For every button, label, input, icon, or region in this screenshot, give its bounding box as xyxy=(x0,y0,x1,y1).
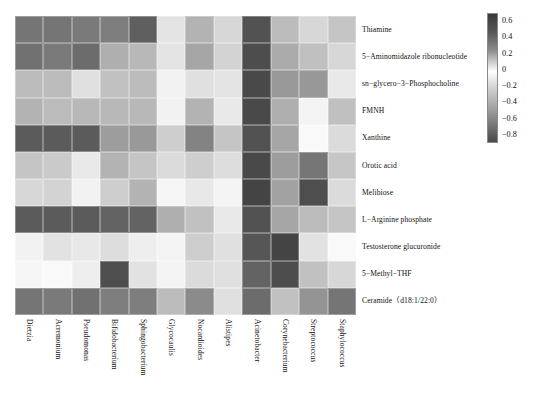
heatmap-cell xyxy=(15,43,43,70)
heatmap-cell xyxy=(129,152,157,179)
row-label: Thiamine xyxy=(362,16,480,43)
heatmap-cell xyxy=(328,206,356,233)
heatmap-cell xyxy=(157,261,185,288)
colorbar-gradient xyxy=(487,13,498,143)
heatmap-cell xyxy=(271,16,299,43)
heatmap-cell xyxy=(242,233,270,260)
heatmap-cell xyxy=(185,206,213,233)
column-label: Bifidobacterium xyxy=(111,319,118,370)
heatmap-cell xyxy=(271,261,299,288)
heatmap-cell xyxy=(185,16,213,43)
heatmap-cell xyxy=(299,16,327,43)
heatmap-cell xyxy=(271,233,299,260)
heatmap-cell xyxy=(242,125,270,152)
row-label: Orotic acid xyxy=(362,152,480,179)
heatmap-cell xyxy=(72,16,100,43)
row-label: Xanthine xyxy=(362,125,480,152)
heatmap-cell xyxy=(242,98,270,125)
heatmap-cell xyxy=(43,70,71,97)
heatmap-cell xyxy=(185,152,213,179)
heatmap-cell xyxy=(242,206,270,233)
heatmap-cell xyxy=(43,288,71,315)
heatmap-cell xyxy=(271,70,299,97)
heatmap-cell xyxy=(100,152,128,179)
heatmap-cell xyxy=(15,261,43,288)
colorbar-tick: 0.2 xyxy=(502,50,512,58)
heatmap-cell xyxy=(328,152,356,179)
heatmap-cell xyxy=(157,152,185,179)
heatmap-cell xyxy=(328,179,356,206)
row-label: Ceramide（d18:1/22:0） xyxy=(362,288,480,315)
heatmap-cell xyxy=(185,98,213,125)
heatmap-cell xyxy=(129,179,157,206)
row-label: 5−Aminomidazole ribonucleotide xyxy=(362,43,480,70)
heatmap-cell xyxy=(129,206,157,233)
column-label-cell: Acinetobacter xyxy=(242,317,270,395)
heatmap-cell xyxy=(185,125,213,152)
heatmap-cell xyxy=(214,70,242,97)
column-label-cell: Alistipes xyxy=(214,317,242,395)
heatmap-cell xyxy=(129,16,157,43)
colorbar-tick: −0.8 xyxy=(502,131,517,139)
heatmap-cell xyxy=(271,43,299,70)
heatmap-cell xyxy=(43,98,71,125)
row-label: sn−glycero−3−Phosphocholine xyxy=(362,70,480,97)
column-label: Pseudomonas xyxy=(82,319,89,361)
column-label-cell: Dietzia xyxy=(15,317,43,395)
heatmap-cell xyxy=(271,125,299,152)
heatmap-cell xyxy=(299,125,327,152)
heatmap-cell xyxy=(157,70,185,97)
colorbar-tick: 0 xyxy=(502,66,506,74)
heatmap-cell xyxy=(15,70,43,97)
heatmap-cell xyxy=(129,98,157,125)
heatmap-cell xyxy=(43,233,71,260)
heatmap-cell xyxy=(72,70,100,97)
heatmap-cell xyxy=(15,152,43,179)
heatmap-cell xyxy=(72,261,100,288)
heatmap-cell xyxy=(242,152,270,179)
heatmap-cell xyxy=(185,261,213,288)
heatmap-cell xyxy=(214,43,242,70)
heatmap-cell xyxy=(43,206,71,233)
heatmap-cell xyxy=(100,43,128,70)
heatmap-cell xyxy=(185,70,213,97)
heatmap-cell xyxy=(72,179,100,206)
heatmap-cell xyxy=(157,43,185,70)
heatmap-cell xyxy=(100,125,128,152)
heatmap-cell xyxy=(100,261,128,288)
column-label-cell: Glycocaulis xyxy=(157,317,185,395)
heatmap-cell xyxy=(185,179,213,206)
heatmap-cell xyxy=(214,288,242,315)
heatmap-plot-area xyxy=(15,16,356,315)
column-label: Sphingobacterium xyxy=(139,319,146,376)
colorbar-tick: −0.2 xyxy=(502,82,517,90)
colorbar-tick: 0.6 xyxy=(502,17,512,25)
heatmap-cell xyxy=(100,98,128,125)
column-label-axis: DietziaAcremoniumPseudomonasBifidobacter… xyxy=(15,317,356,395)
heatmap-cell xyxy=(43,152,71,179)
heatmap-cell xyxy=(328,288,356,315)
heatmap-cell xyxy=(43,43,71,70)
column-label: Dietzia xyxy=(26,319,33,341)
heatmap-cell xyxy=(72,43,100,70)
heatmap-cell xyxy=(242,16,270,43)
heatmap-cell xyxy=(157,233,185,260)
heatmap-cell xyxy=(15,233,43,260)
heatmap-cell xyxy=(43,179,71,206)
column-label: Nocardioides xyxy=(196,319,203,360)
heatmap-cell xyxy=(129,261,157,288)
heatmap-cell xyxy=(242,288,270,315)
heatmap-cell xyxy=(15,125,43,152)
heatmap-cell xyxy=(242,43,270,70)
heatmap-cell xyxy=(271,152,299,179)
heatmap-cell xyxy=(72,233,100,260)
column-label-cell: Sphingobacterium xyxy=(129,317,157,395)
heatmap-cell xyxy=(100,233,128,260)
heatmap-cell xyxy=(242,261,270,288)
heatmap-cell xyxy=(157,288,185,315)
heatmap-cell xyxy=(328,261,356,288)
heatmap-cell xyxy=(328,125,356,152)
heatmap-cell xyxy=(15,179,43,206)
heatmap-cell xyxy=(214,261,242,288)
heatmap-cell xyxy=(100,70,128,97)
